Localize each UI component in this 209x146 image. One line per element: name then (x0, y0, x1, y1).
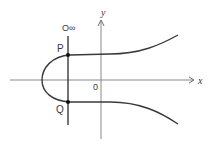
point-q-label: Q (56, 104, 64, 115)
x-axis-label: x (197, 75, 203, 86)
point-q (66, 100, 70, 104)
origin-label: 0 (93, 82, 98, 92)
elliptic-curve-diagram: x y 0 P Q O∞ (0, 0, 209, 146)
point-p (66, 53, 70, 57)
point-p-label: P (57, 43, 64, 54)
y-axis-label: y (100, 7, 106, 18)
point-at-infinity-label: O∞ (62, 23, 75, 33)
